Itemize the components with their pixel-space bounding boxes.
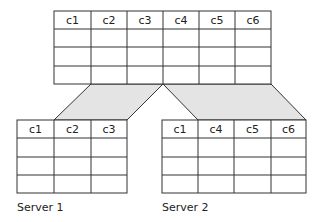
partitioning-diagram xyxy=(0,0,321,222)
split-connector-server2 xyxy=(163,84,306,120)
server1-caption: Server 1 xyxy=(17,202,64,214)
top-header-c5: c5 xyxy=(199,15,235,27)
server2-header-c6: c6 xyxy=(271,124,306,136)
top-header-c4: c4 xyxy=(163,15,199,27)
split-connector-server1 xyxy=(54,84,163,120)
top-header-c2: c2 xyxy=(91,15,127,27)
top-header-c6: c6 xyxy=(235,15,271,27)
server2-header-c1: c1 xyxy=(162,124,198,136)
server1-header-c3: c3 xyxy=(91,124,127,136)
server2-header-c5: c5 xyxy=(234,124,271,136)
top-header-c1: c1 xyxy=(54,15,91,27)
top-header-c3: c3 xyxy=(127,15,163,27)
server2-header-c4: c4 xyxy=(198,124,234,136)
server2-caption: Server 2 xyxy=(162,202,209,214)
server1-header-c1: c1 xyxy=(17,124,54,136)
server1-header-c2: c2 xyxy=(54,124,91,136)
